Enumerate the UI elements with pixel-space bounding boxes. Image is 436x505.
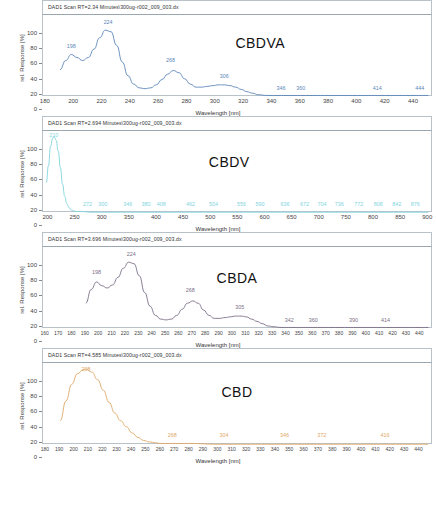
peak-label: 590	[256, 201, 265, 207]
x-tick-label: 850	[395, 214, 405, 220]
peak-label: 224	[104, 19, 113, 25]
x-tick-label: 250	[70, 214, 80, 220]
x-tick-label: 180	[41, 446, 49, 452]
x-tick-label: 380	[335, 330, 343, 336]
spectrum-curve	[43, 363, 431, 445]
y-tick-label: 0	[34, 454, 37, 460]
x-tick-label: 440	[415, 330, 423, 336]
peak-label: 346	[280, 432, 289, 438]
y-ticks-cbdv: 020406080100	[0, 129, 42, 225]
peak-label: 304	[220, 432, 229, 438]
peak-label: 390	[349, 317, 358, 323]
x-tick-label: 420	[388, 330, 396, 336]
y-tick-label: 0	[34, 222, 37, 228]
x-tick-label: 420	[386, 446, 394, 452]
x-tick-label: 370	[321, 330, 329, 336]
peak-label: 210	[49, 132, 58, 138]
x-tick-label: 240	[127, 446, 135, 452]
plot-area-cbda: 198224268305342360390414CBDA	[42, 246, 432, 328]
y-tick-label: 80	[30, 277, 37, 283]
x-tick-label: 250	[141, 446, 149, 452]
x-tick-label: 200	[94, 330, 102, 336]
x-tick-label: 380	[323, 98, 333, 104]
x-tick-label: 300	[228, 330, 236, 336]
x-tick-label: 400	[151, 214, 161, 220]
x-tick-label: 180	[40, 98, 50, 104]
y-tick-label: 20	[30, 207, 37, 213]
compound-label: CBD	[221, 384, 252, 400]
uv-spectra-figure: DAD1 Scan RT=2.34 Minutes\300ug-r002_009…	[0, 0, 436, 505]
x-tick-label: 360	[308, 330, 316, 336]
peak-label: 306	[220, 73, 229, 79]
x-tick-label: 800	[368, 214, 378, 220]
x-tick-label: 330	[268, 330, 276, 336]
x-ticks-cbdv: 2002503003504004505005506006507007508008…	[42, 212, 432, 228]
spectrum-panel-cbd: DAD1 Scan RT=4.585 Minutes\300ug-r002_00…	[0, 348, 436, 464]
y-tick-label: 40	[30, 424, 37, 430]
y-tick-label: 60	[30, 176, 37, 182]
peak-label: 736	[335, 201, 344, 207]
peak-label: 198	[92, 269, 101, 275]
peak-label: 268	[186, 287, 195, 293]
y-tick-label: 80	[30, 393, 37, 399]
x-tick-label: 650	[287, 214, 297, 220]
peak-label: 416	[381, 432, 390, 438]
peak-label: 360	[296, 85, 305, 91]
x-tick-label: 280	[201, 330, 209, 336]
y-tick-label: 80	[30, 45, 37, 51]
peak-label: 272	[83, 201, 92, 207]
x-ticks-cbd: 1801902002102202302402502602702802903003…	[42, 444, 432, 460]
peak-label: 556	[237, 201, 246, 207]
peak-label: 268	[168, 432, 177, 438]
x-tick-label: 450	[178, 214, 188, 220]
x-tick-label: 210	[107, 330, 115, 336]
peak-label: 342	[285, 317, 294, 323]
y-tick-label: 60	[30, 60, 37, 66]
x-tick-label: 350	[285, 446, 293, 452]
x-tick-label: 220	[98, 446, 106, 452]
x-tick-label: 300	[210, 98, 220, 104]
x-tick-label: 240	[125, 98, 135, 104]
x-tick-label: 200	[42, 214, 52, 220]
x-tick-label: 160	[41, 330, 49, 336]
y-tick-label: 40	[30, 308, 37, 314]
x-tick-label: 200	[69, 446, 77, 452]
peak-label: 808	[374, 201, 383, 207]
x-tick-label: 420	[380, 98, 390, 104]
x-tick-label: 320	[238, 98, 248, 104]
x-tick-label: 230	[113, 446, 121, 452]
x-tick-label: 300	[97, 214, 107, 220]
peak-label: 305	[235, 304, 244, 310]
x-tick-label: 340	[281, 330, 289, 336]
x-tick-label: 900	[422, 214, 432, 220]
y-tick-label: 100	[27, 30, 37, 36]
peak-label: 636	[281, 201, 290, 207]
peak-label: 300	[98, 201, 107, 207]
x-tick-label: 360	[299, 446, 307, 452]
x-tick-label: 180	[67, 330, 75, 336]
x-tick-label: 340	[271, 446, 279, 452]
x-tick-label: 280	[181, 98, 191, 104]
spectrum-panel-cbda: DAD1 Scan RT=3.696 Minutes\300ug-r002_00…	[0, 232, 436, 348]
x-tick-label: 390	[342, 446, 350, 452]
peak-label: 346	[123, 201, 132, 207]
y-tick-label: 100	[27, 262, 37, 268]
x-tick-label: 380	[328, 446, 336, 452]
spectrum-curve	[43, 247, 431, 329]
x-tick-label: 280	[184, 446, 192, 452]
peak-label: 672	[300, 201, 309, 207]
y-tick-label: 60	[30, 292, 37, 298]
x-tick-label: 310	[228, 446, 236, 452]
x-tick-label: 260	[153, 98, 163, 104]
y-tick-label: 40	[30, 76, 37, 82]
y-ticks-cbda: 020406080100	[0, 245, 42, 341]
peak-label: 408	[157, 201, 166, 207]
x-tick-label: 190	[81, 330, 89, 336]
compound-label: CBDV	[209, 154, 250, 170]
plot-area-cbdv: 2102723003463804084625045565906366727047…	[42, 130, 432, 212]
x-tick-label: 290	[214, 330, 222, 336]
x-tick-label: 320	[255, 330, 263, 336]
peak-label: 224	[127, 251, 136, 257]
x-tick-label: 400	[351, 98, 361, 104]
x-tick-label: 350	[295, 330, 303, 336]
